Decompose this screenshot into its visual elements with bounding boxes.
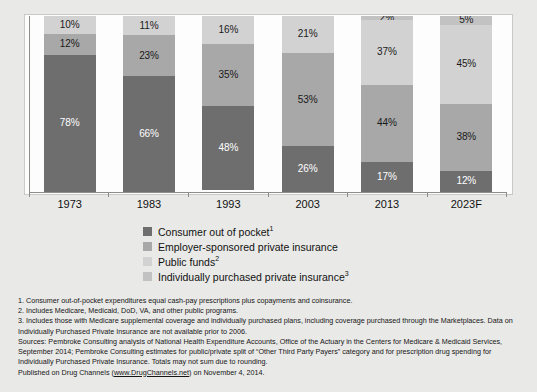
x-axis-label: 2013: [347, 198, 426, 210]
legend-swatch-icon: [143, 257, 152, 266]
bar-segment-label: 37%: [377, 47, 397, 57]
published-note: Published on Drug Channels (www.DrugChan…: [18, 368, 523, 378]
x-axis-label: 2003: [268, 198, 347, 210]
bar-segment[interactable]: 5%: [440, 16, 492, 25]
bar-segment[interactable]: 37%: [361, 20, 413, 85]
legend-item-label: Public funds2: [158, 255, 219, 268]
bar-segment[interactable]: 11%: [123, 16, 175, 35]
bar-segment[interactable]: 45%: [440, 25, 492, 104]
x-axis-tick: [29, 192, 30, 197]
x-axis-label: 2023F: [427, 198, 506, 210]
x-axis-label: 1993: [189, 198, 268, 210]
bar-segment[interactable]: 66%: [123, 76, 175, 192]
bar-slot: 5%45%38%12%: [427, 16, 506, 192]
legend-item-label: Employer-sponsored private insurance: [158, 241, 338, 253]
bar-segment-label: 17%: [377, 172, 397, 182]
bar-segment[interactable]: 44%: [361, 85, 413, 162]
stacked-bar[interactable]: 16%35%48%: [202, 16, 254, 192]
bar-segment-label: 45%: [456, 59, 476, 69]
bar-segment-label: 78%: [60, 118, 80, 128]
chart-legend: Consumer out of pocket1Employer-sponsore…: [143, 224, 443, 284]
bar-segment-label: 66%: [139, 129, 159, 139]
footnote-1: 1. Consumer out-of-pocket expenditures e…: [18, 296, 523, 306]
legend-item[interactable]: Public funds2: [143, 254, 443, 269]
legend-footnote-marker: 3: [345, 270, 349, 277]
bar-segment-label: 23%: [139, 51, 159, 61]
bar-segment-label: 44%: [377, 118, 397, 128]
bar-segment[interactable]: 12%: [44, 34, 96, 55]
bar-segment[interactable]: 23%: [123, 35, 175, 75]
footnote-2: 2. Includes Medicare, Medicaid, DoD, VA,…: [18, 306, 523, 316]
footnote-3: 3. Includes those with Medicare suppleme…: [18, 316, 523, 336]
legend-item[interactable]: Employer-sponsored private insurance: [143, 239, 443, 254]
legend-swatch-icon: [143, 272, 152, 281]
x-axis-label: 1983: [109, 198, 188, 210]
bar-segment[interactable]: 17%: [361, 162, 413, 192]
bar-segment[interactable]: 78%: [44, 55, 96, 192]
bar-segment[interactable]: 16%: [202, 16, 254, 44]
legend-footnote-marker: 2: [215, 255, 219, 262]
legend-swatch-icon: [143, 242, 152, 251]
sources-note: Sources: Pembroke Consulting analysis of…: [18, 337, 523, 368]
bar-segment[interactable]: 48%: [202, 106, 254, 190]
bar-segment[interactable]: 26%: [282, 146, 334, 192]
bar-segment[interactable]: 10%: [44, 16, 96, 34]
bar-segment-label: 35%: [218, 70, 238, 80]
drugchannels-link[interactable]: www.DrugChannels.net: [114, 368, 189, 377]
stacked-bar-group: 10%12%78%11%23%66%16%35%48%21%53%26%2%37…: [30, 16, 506, 192]
bar-segment-label: 11%: [139, 21, 158, 31]
bar-slot: 21%53%26%: [268, 16, 347, 192]
bar-segment-label: 26%: [298, 164, 318, 174]
legend-item-label: Individually purchased private insurance…: [158, 270, 349, 283]
bar-segment-label: 5%: [459, 16, 473, 25]
stacked-bar[interactable]: 11%23%66%: [123, 16, 175, 192]
published-suffix: ) on November 4, 2014.: [189, 368, 265, 377]
stacked-bar[interactable]: 10%12%78%: [44, 16, 96, 192]
bar-segment[interactable]: 53%: [282, 53, 334, 146]
stacked-bar[interactable]: 5%45%38%12%: [440, 16, 492, 192]
bar-segment-label: 53%: [298, 95, 318, 105]
legend-swatch-icon: [143, 227, 152, 236]
x-axis-tick: [506, 192, 507, 197]
legend-item[interactable]: Consumer out of pocket1: [143, 224, 443, 239]
bar-slot: 2%37%44%17%: [347, 16, 426, 192]
bar-segment[interactable]: 21%: [282, 16, 334, 53]
bar-segment[interactable]: 12%: [440, 171, 492, 192]
bar-slot: 11%23%66%: [109, 16, 188, 192]
x-axis-label: 1973: [30, 198, 109, 210]
legend-item[interactable]: Individually purchased private insurance…: [143, 269, 443, 284]
bar-segment-label: 10%: [60, 20, 80, 30]
bar-slot: 16%35%48%: [189, 16, 268, 192]
x-axis-labels: 197319831993200320132023F: [30, 198, 506, 210]
x-axis-tick: [427, 192, 428, 197]
bar-segment-label: 38%: [456, 132, 476, 142]
published-prefix: Published on Drug Channels (: [18, 368, 114, 377]
legend-footnote-marker: 1: [269, 225, 273, 232]
bar-segment[interactable]: 38%: [440, 104, 492, 171]
stacked-bar[interactable]: 21%53%26%: [282, 16, 334, 192]
bar-segment-label: 16%: [218, 25, 238, 35]
bar-segment[interactable]: 35%: [202, 44, 254, 106]
bar-segment-label: 21%: [298, 29, 318, 39]
chart-slide: 10%12%78%11%23%66%16%35%48%21%53%26%2%37…: [0, 0, 537, 392]
bar-segment-label: 12%: [456, 176, 476, 186]
stacked-bar[interactable]: 2%37%44%17%: [361, 16, 413, 192]
bar-segment-label: 12%: [60, 39, 80, 49]
bar-segment-label: 48%: [218, 143, 238, 153]
legend-item-label: Consumer out of pocket1: [158, 225, 273, 238]
bar-slot: 10%12%78%: [30, 16, 109, 192]
x-axis-tick: [108, 192, 109, 197]
x-axis-ticks: [29, 192, 506, 197]
x-axis-tick: [347, 192, 348, 197]
footnotes-block: 1. Consumer out-of-pocket expenditures e…: [18, 296, 523, 378]
x-axis-tick: [188, 192, 189, 197]
x-axis-tick: [268, 192, 269, 197]
